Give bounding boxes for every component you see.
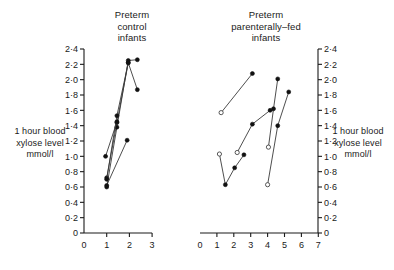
x-tick-label: 7	[316, 240, 321, 250]
x-tick-label: 0	[81, 240, 86, 250]
data-point-filled	[135, 58, 139, 62]
series-line	[268, 79, 277, 147]
data-point-open	[217, 152, 221, 156]
y-tick-label: 2·2	[324, 60, 337, 70]
y-tick-label: 0	[73, 228, 78, 238]
y-tick-label: 0·4	[324, 198, 337, 208]
x-tick-label: 3	[248, 240, 253, 250]
x-tick-label: 2	[231, 240, 236, 250]
series-line	[221, 74, 252, 113]
x-tick-label: 4	[265, 240, 270, 250]
data-point-filled	[242, 153, 246, 157]
data-point-filled	[125, 138, 129, 142]
x-tick-label: 1	[214, 240, 219, 250]
data-point-filled	[105, 183, 109, 187]
y-tick-label: 1·6	[65, 106, 78, 116]
y-tick-label: 1·6	[324, 106, 337, 116]
data-point-open	[266, 183, 270, 187]
x-tick-label: 1	[104, 240, 109, 250]
data-point-open	[266, 145, 270, 149]
x-tick-label: 0	[197, 240, 202, 250]
data-point-filled	[250, 72, 254, 76]
y-tick-label: 1·0	[65, 152, 78, 162]
y-tick-label: 2·4	[324, 44, 337, 54]
data-point-filled	[287, 90, 291, 94]
series-line	[268, 92, 289, 185]
y-tick-label: 0·6	[324, 182, 337, 192]
y-tick-label: 1·4	[324, 121, 337, 131]
y-tick-label: 2·4	[65, 44, 78, 54]
y-tick-label: 2·0	[65, 75, 78, 85]
data-point-filled	[105, 177, 109, 181]
data-point-filled	[115, 114, 119, 118]
data-point-open	[235, 150, 239, 154]
y-tick-label: 2·2	[65, 60, 78, 70]
x-tick-label: 6	[299, 240, 304, 250]
x-tick-label: 5	[282, 240, 287, 250]
y-tick-label: 0	[324, 228, 329, 238]
y-tick-label: 1·0	[324, 152, 337, 162]
x-tick-label: 2	[127, 240, 132, 250]
data-point-filled	[276, 77, 280, 81]
series-line	[107, 60, 138, 187]
y-tick-label: 0·2	[65, 213, 78, 223]
y-tick-label: 0·8	[65, 167, 78, 177]
x-tick-label: 3	[150, 240, 155, 250]
series-line	[219, 154, 244, 185]
y-tick-label: 0·8	[324, 167, 337, 177]
data-point-filled	[126, 61, 130, 65]
y-tick-label: 1·4	[65, 121, 78, 131]
y-tick-label: 2·0	[324, 75, 337, 85]
data-point-filled	[223, 183, 227, 187]
data-point-filled	[135, 88, 139, 92]
data-point-filled	[104, 154, 108, 158]
series-line	[237, 110, 270, 152]
plot-canvas: 00·20·40·60·81·01·21·41·61·82·02·22·4012…	[0, 0, 394, 270]
y-tick-label: 1·8	[65, 90, 78, 100]
y-tick-label: 1·2	[65, 136, 78, 146]
y-tick-label: 0·6	[65, 182, 78, 192]
data-point-filled	[268, 108, 272, 112]
data-point-filled	[250, 122, 254, 126]
y-tick-label: 1·8	[324, 90, 337, 100]
panel-left-control-infants: 00·20·40·60·81·01·21·41·61·82·02·22·4012…	[65, 44, 155, 250]
y-tick-label: 1·2	[324, 136, 337, 146]
y-tick-label: 0·2	[324, 213, 337, 223]
data-point-filled	[115, 120, 119, 124]
data-point-filled	[233, 166, 237, 170]
panel-right-parenteral-infants: 00·20·40·60·81·01·21·41·61·82·02·22·4012…	[197, 44, 337, 250]
data-point-open	[219, 111, 223, 115]
data-point-filled	[276, 124, 280, 128]
y-tick-label: 0·4	[65, 198, 78, 208]
figure-container: Preterm control infants Preterm parenter…	[0, 0, 394, 270]
